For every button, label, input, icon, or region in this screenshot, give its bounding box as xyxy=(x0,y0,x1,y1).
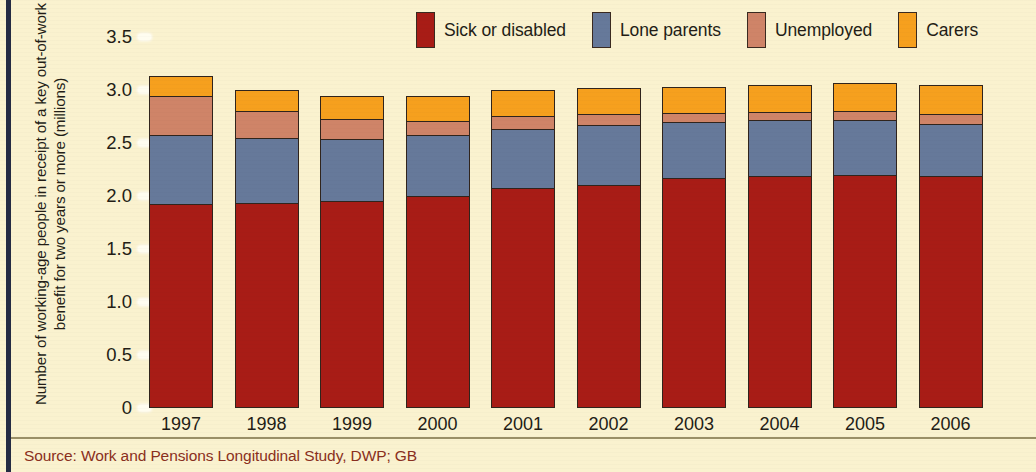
bar-column[interactable]: 2002 xyxy=(577,37,641,408)
source-note: Source: Work and Pensions Longitudinal S… xyxy=(24,447,417,465)
bar-segment[interactable] xyxy=(407,121,469,136)
bar-column[interactable]: 2003 xyxy=(662,37,726,408)
bar-segment[interactable] xyxy=(407,97,469,120)
bar-segment[interactable] xyxy=(749,86,811,112)
x-axis-tick-label: 2005 xyxy=(845,414,885,435)
bar-column[interactable]: 2006 xyxy=(919,37,983,408)
stacked-bar[interactable] xyxy=(577,88,641,408)
bar-segment[interactable] xyxy=(578,125,640,185)
bar-segment[interactable] xyxy=(834,84,896,111)
bar-series-container: 1997199819992000200120022003200420052006 xyxy=(132,37,1012,408)
bar-segment[interactable] xyxy=(236,203,298,407)
bar-column[interactable]: 2000 xyxy=(406,37,470,408)
stacked-bar[interactable] xyxy=(406,96,470,408)
bar-segment[interactable] xyxy=(150,96,212,135)
bar-segment[interactable] xyxy=(492,188,554,407)
x-axis-tick-label: 2006 xyxy=(930,414,970,435)
bar-segment[interactable] xyxy=(920,114,982,123)
bar-segment[interactable] xyxy=(492,116,554,129)
bar-segment[interactable] xyxy=(920,124,982,177)
bar-segment[interactable] xyxy=(663,178,725,407)
bar-segment[interactable] xyxy=(663,113,725,121)
plot-area: 3.53.02.52.01.51.00.50 19971998199920002… xyxy=(132,37,1012,408)
bar-segment[interactable] xyxy=(492,129,554,188)
stacked-bar[interactable] xyxy=(919,85,983,408)
x-axis-tick-label: 1999 xyxy=(332,414,372,435)
bar-segment[interactable] xyxy=(321,139,383,200)
y-axis-title-text: Number of working-age people in receipt … xyxy=(31,0,69,424)
stacked-bar[interactable] xyxy=(662,87,726,408)
bar-segment[interactable] xyxy=(578,114,640,125)
bar-column[interactable]: 2001 xyxy=(491,37,555,408)
source-divider xyxy=(11,437,1036,439)
bar-segment[interactable] xyxy=(920,176,982,407)
bar-segment[interactable] xyxy=(663,88,725,113)
y-axis-tick-label: 2.5 xyxy=(88,132,132,154)
bar-segment[interactable] xyxy=(749,120,811,176)
bar-column[interactable]: 1997 xyxy=(149,37,213,408)
bar-segment[interactable] xyxy=(663,122,725,179)
x-axis-tick-label: 1997 xyxy=(161,414,201,435)
y-axis-tick-label: 3.5 xyxy=(88,26,132,48)
y-axis-tick-label: 1.5 xyxy=(88,238,132,260)
bar-segment[interactable] xyxy=(236,91,298,111)
bar-segment[interactable] xyxy=(236,111,298,138)
y-axis-tick: 1.5 xyxy=(88,238,132,260)
y-axis-tick: 1.0 xyxy=(88,291,132,313)
stacked-bar[interactable] xyxy=(235,90,299,408)
bar-segment[interactable] xyxy=(321,97,383,119)
bar-segment[interactable] xyxy=(321,201,383,407)
stacked-bar[interactable] xyxy=(149,76,213,408)
y-axis-tick-label: 0 xyxy=(88,397,132,419)
stacked-bar[interactable] xyxy=(320,96,384,408)
bar-column[interactable]: 1999 xyxy=(320,37,384,408)
bar-segment[interactable] xyxy=(407,135,469,196)
x-axis-tick-label: 2001 xyxy=(503,414,543,435)
figure-left-border xyxy=(6,0,11,472)
bar-segment[interactable] xyxy=(150,77,212,96)
bar-segment[interactable] xyxy=(492,91,554,116)
bar-segment[interactable] xyxy=(578,185,640,407)
x-axis-tick-label: 2002 xyxy=(588,414,628,435)
y-axis-tick-label: 2.0 xyxy=(88,185,132,207)
y-axis-tick-label: 3.0 xyxy=(88,79,132,101)
bar-segment[interactable] xyxy=(150,135,212,203)
x-axis-tick-label: 2004 xyxy=(759,414,799,435)
x-axis-tick-label: 1998 xyxy=(246,414,286,435)
bar-segment[interactable] xyxy=(834,175,896,407)
y-axis-tick-label: 0.5 xyxy=(88,344,132,366)
y-axis-tick-label: 1.0 xyxy=(88,291,132,313)
y-axis-tick: 2.0 xyxy=(88,185,132,207)
bar-column[interactable]: 2005 xyxy=(833,37,897,408)
bar-segment[interactable] xyxy=(407,196,469,407)
stacked-bar[interactable] xyxy=(833,83,897,408)
bar-segment[interactable] xyxy=(749,112,811,120)
stacked-bar[interactable] xyxy=(491,90,555,408)
y-axis-tick: 0.5 xyxy=(88,344,132,366)
x-axis-tick-label: 2000 xyxy=(417,414,457,435)
bar-column[interactable]: 2004 xyxy=(748,37,812,408)
bar-segment[interactable] xyxy=(578,89,640,114)
bar-segment[interactable] xyxy=(321,119,383,139)
bar-column[interactable]: 1998 xyxy=(235,37,299,408)
chart-figure: Sick or disabledLone parentsUnemployedCa… xyxy=(0,0,1036,472)
stacked-bar[interactable] xyxy=(748,85,812,408)
bar-segment[interactable] xyxy=(834,120,896,175)
y-axis-title: Number of working-age people in receipt … xyxy=(24,0,76,424)
bar-segment[interactable] xyxy=(834,111,896,120)
y-axis-tick: 3.0 xyxy=(88,79,132,101)
y-axis-tick: 2.5 xyxy=(88,132,132,154)
y-axis-tick: 3.5 xyxy=(88,26,132,48)
bar-segment[interactable] xyxy=(749,176,811,407)
y-axis-tick: 0 xyxy=(88,397,132,419)
x-axis-tick-label: 2003 xyxy=(674,414,714,435)
bar-segment[interactable] xyxy=(920,86,982,114)
bar-segment[interactable] xyxy=(236,138,298,202)
bar-segment[interactable] xyxy=(150,204,212,407)
